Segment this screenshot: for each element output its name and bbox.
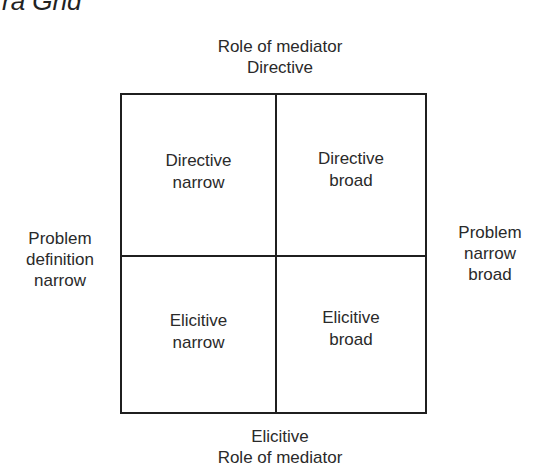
left-axis-line1: Problem <box>10 228 110 249</box>
left-axis-label: Problem definition narrow <box>10 228 110 291</box>
quadrant-label-line1: Elicitive <box>122 310 275 332</box>
quadrant-elicitive-narrow: Elicitive narrow <box>122 310 275 354</box>
quadrant-elicitive-broad: Elicitive broad <box>277 307 425 351</box>
quadrant-directive-narrow: Directive narrow <box>122 150 275 194</box>
quadrant-label-line2: narrow <box>122 172 275 194</box>
right-axis-label: Problem narrow broad <box>440 222 540 285</box>
right-axis-line3: broad <box>440 264 540 285</box>
quadrant-label-line1: Directive <box>122 150 275 172</box>
bottom-axis-line2: Role of mediator <box>200 447 360 468</box>
left-axis-line2: definition <box>10 249 110 270</box>
right-axis-line1: Problem <box>440 222 540 243</box>
quadrant-label-line1: Directive <box>277 148 425 170</box>
horizontal-divider <box>122 255 425 257</box>
quadrant-label-line2: broad <box>277 329 425 351</box>
bottom-axis-label: Elicitive Role of mediator <box>200 426 360 468</box>
quadrant-label-line2: broad <box>277 170 425 192</box>
quadrant-grid: Directive narrow Directive broad Eliciti… <box>120 93 427 414</box>
top-axis-label: Role of mediator Directive <box>200 36 360 78</box>
top-axis-line1: Role of mediator <box>200 36 360 57</box>
top-axis-line2: Directive <box>200 57 360 78</box>
figure-title-fragment: ra Grid <box>2 0 81 17</box>
quadrant-directive-broad: Directive broad <box>277 148 425 192</box>
quadrant-label-line2: narrow <box>122 332 275 354</box>
quadrant-label-line1: Elicitive <box>277 307 425 329</box>
left-axis-line3: narrow <box>10 270 110 291</box>
right-axis-line2: narrow <box>440 243 540 264</box>
vertical-divider <box>275 95 277 412</box>
bottom-axis-line1: Elicitive <box>200 426 360 447</box>
